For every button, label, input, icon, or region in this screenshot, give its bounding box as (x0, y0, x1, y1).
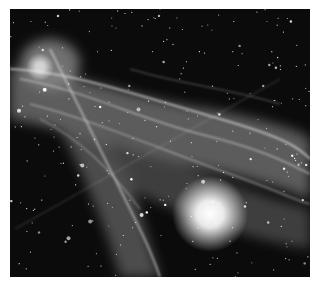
star (94, 106, 95, 107)
star (280, 65, 281, 66)
star (77, 174, 79, 176)
star (295, 160, 296, 161)
star (229, 98, 230, 99)
star (162, 61, 164, 63)
star (237, 272, 238, 273)
star (120, 244, 121, 245)
star (186, 110, 187, 111)
star (148, 19, 149, 20)
star (69, 9, 70, 10)
star (201, 180, 205, 184)
star (106, 144, 107, 145)
star (297, 164, 299, 166)
star (296, 66, 297, 67)
star (88, 219, 92, 223)
star (197, 227, 198, 228)
star (238, 45, 240, 47)
star (188, 118, 189, 119)
star (232, 131, 233, 132)
star (233, 98, 234, 99)
star (115, 27, 116, 28)
star (83, 86, 84, 87)
star (19, 263, 20, 264)
star (64, 241, 66, 243)
star (108, 225, 109, 226)
star (60, 163, 61, 164)
star (281, 103, 282, 104)
star (273, 269, 274, 270)
star (186, 61, 187, 62)
star (44, 175, 45, 176)
star (108, 120, 109, 121)
star (38, 231, 40, 233)
star (81, 149, 82, 150)
star (26, 208, 27, 209)
star (249, 133, 250, 134)
star (68, 98, 69, 99)
star (286, 246, 287, 247)
star (213, 200, 214, 201)
star (72, 225, 73, 226)
star (30, 252, 31, 253)
star (156, 126, 157, 127)
star (150, 207, 151, 208)
star (258, 119, 259, 120)
star (39, 47, 40, 48)
star (262, 85, 264, 87)
star (13, 22, 14, 23)
nebula-photo (10, 9, 310, 277)
star (287, 172, 288, 173)
star (111, 25, 112, 26)
star (289, 259, 290, 260)
star (79, 11, 80, 12)
star (88, 203, 89, 204)
star (150, 166, 151, 167)
star (220, 179, 221, 180)
star (281, 226, 282, 227)
star (278, 18, 279, 19)
star (47, 25, 48, 26)
star (155, 18, 156, 19)
star (288, 176, 289, 177)
star (89, 92, 90, 93)
star (111, 50, 112, 51)
star (266, 180, 267, 181)
star (277, 148, 278, 149)
star (141, 25, 142, 26)
star (296, 153, 297, 154)
star (305, 88, 306, 89)
star (275, 67, 277, 69)
star (129, 200, 130, 201)
star (53, 136, 54, 137)
star (211, 201, 213, 203)
star (43, 88, 47, 92)
star (277, 25, 278, 26)
star (131, 12, 132, 13)
star (100, 265, 101, 266)
star (285, 258, 286, 259)
star (238, 65, 239, 66)
star (130, 178, 132, 180)
star (10, 200, 12, 202)
star (204, 52, 205, 53)
star (10, 36, 11, 37)
star (256, 12, 257, 13)
star (111, 18, 112, 19)
star (79, 133, 80, 134)
star (112, 207, 113, 208)
star (304, 262, 306, 264)
star (165, 102, 166, 103)
star (15, 126, 16, 127)
star (97, 51, 98, 52)
star (169, 27, 170, 28)
star (199, 51, 200, 52)
star (144, 197, 145, 198)
star (290, 20, 292, 22)
star (216, 141, 217, 142)
star (32, 222, 33, 223)
star (195, 269, 196, 270)
star (133, 154, 134, 155)
star (80, 163, 84, 167)
star (268, 64, 270, 66)
star (182, 29, 183, 30)
